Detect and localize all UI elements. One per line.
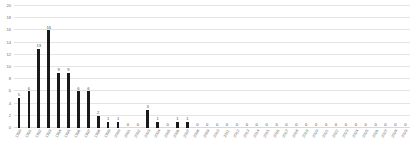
bar-slot[interactable]: 1 (153, 6, 163, 128)
x-axis-tick-label: 1996 (74, 129, 82, 138)
x-axis-tick-label: 2003 (143, 129, 151, 138)
y-axis-tick-label: 4 (9, 102, 11, 106)
bar-value-label: 0 (345, 123, 347, 127)
bar-value-label: 1 (107, 117, 109, 121)
bar-slot[interactable]: 1 (103, 6, 113, 128)
bar[interactable] (67, 73, 70, 128)
bar-slot[interactable]: 16 (44, 6, 54, 128)
x-axis-tick: 2014 (252, 128, 262, 159)
bar-value-label: 6 (87, 87, 89, 91)
bar-value-label: 16 (46, 26, 51, 30)
x-axis-tick-label: 2000 (114, 129, 122, 138)
bar-slot[interactable]: 1 (173, 6, 183, 128)
bar-value-label: 0 (226, 123, 228, 127)
bar-slot[interactable]: 0 (400, 6, 410, 128)
bar[interactable] (57, 73, 60, 128)
bar-slot[interactable]: 0 (252, 6, 262, 128)
bar-slot[interactable]: 0 (301, 6, 311, 128)
bar-slot[interactable]: 0 (281, 6, 291, 128)
bar-slot[interactable]: 0 (371, 6, 381, 128)
bar-value-label: 0 (384, 123, 386, 127)
x-axis-tick: 1992 (34, 128, 44, 159)
x-axis-tick-label: 2026 (371, 129, 379, 138)
bar[interactable] (18, 98, 21, 129)
x-axis-tick-label: 1990 (15, 129, 23, 138)
bar-value-label: 0 (265, 123, 267, 127)
x-axis-tick: 2011 (222, 128, 232, 159)
bar-slot[interactable]: 5 (14, 6, 24, 128)
bar-slot[interactable]: 0 (291, 6, 301, 128)
x-axis-tick-label: 1999 (104, 129, 112, 138)
x-axis-tick: 2012 (232, 128, 242, 159)
bar-slot[interactable]: 6 (83, 6, 93, 128)
x-axis-tick: 2027 (381, 128, 391, 159)
bar-slot[interactable]: 9 (64, 6, 74, 128)
bar-slot[interactable]: 0 (321, 6, 331, 128)
bar-value-label: 0 (335, 123, 337, 127)
bar-value-label: 0 (355, 123, 357, 127)
bar-slot[interactable]: 0 (202, 6, 212, 128)
bar[interactable] (146, 110, 149, 128)
x-axis-tick: 2006 (173, 128, 183, 159)
bar-value-label: 0 (285, 123, 287, 127)
bar-slot[interactable]: 0 (341, 6, 351, 128)
bar-slot[interactable]: 1 (113, 6, 123, 128)
x-axis-tick-label: 2006 (173, 129, 181, 138)
bar-slot[interactable]: 0 (192, 6, 202, 128)
x-axis-tick-label: 2007 (183, 129, 191, 138)
x-axis-tick-label: 2028 (391, 129, 399, 138)
x-axis-tick: 2000 (113, 128, 123, 159)
x-axis-tick: 1995 (64, 128, 74, 159)
bar-slot[interactable]: 2 (93, 6, 103, 128)
x-axis-tick-label: 1992 (34, 129, 42, 138)
x-axis-tick: 2028 (390, 128, 400, 159)
bar-slot[interactable]: 0 (390, 6, 400, 128)
x-axis-tick: 2016 (272, 128, 282, 159)
bar-slot[interactable]: 0 (123, 6, 133, 128)
y-axis-tick-label: 6 (9, 89, 11, 93)
bar-slot[interactable]: 0 (163, 6, 173, 128)
bar-slot[interactable]: 0 (331, 6, 341, 128)
bar-slot[interactable]: 0 (242, 6, 252, 128)
x-axis-tick-label: 2009 (203, 129, 211, 138)
bar-value-label: 0 (127, 123, 129, 127)
bar[interactable] (87, 91, 90, 128)
bar-value-label: 1 (176, 117, 178, 121)
bar[interactable] (77, 91, 80, 128)
bar-slot[interactable]: 13 (34, 6, 44, 128)
bar-slot[interactable]: 0 (351, 6, 361, 128)
x-axis-tick-label: 2005 (163, 129, 171, 138)
bar-slot[interactable]: 0 (133, 6, 143, 128)
bar-slot[interactable]: 3 (143, 6, 153, 128)
x-axis-tick: 2004 (153, 128, 163, 159)
bar-value-label: 0 (196, 123, 198, 127)
bar-value-label: 0 (404, 123, 406, 127)
bar-slot[interactable]: 0 (212, 6, 222, 128)
bar-slot[interactable]: 0 (232, 6, 242, 128)
x-axis-tick-label: 1991 (25, 129, 33, 138)
y-axis-tick-label: 18 (6, 16, 11, 20)
bar[interactable] (28, 91, 31, 128)
bar-value-label: 1 (186, 117, 188, 121)
bar-value-label: 0 (256, 123, 258, 127)
bar-slot[interactable]: 6 (73, 6, 83, 128)
x-axis-tick: 2001 (123, 128, 133, 159)
bar-slot[interactable]: 0 (311, 6, 321, 128)
bar[interactable] (47, 30, 50, 128)
x-axis-tick-label: 1995 (64, 129, 72, 138)
bar-slot[interactable]: 0 (361, 6, 371, 128)
bar[interactable] (37, 49, 40, 128)
y-axis-tick-label: 14 (6, 41, 11, 45)
bar-slot[interactable]: 9 (54, 6, 64, 128)
bar-value-label: 1 (117, 117, 119, 121)
x-axis-tick: 2021 (321, 128, 331, 159)
bar-slot[interactable]: 0 (262, 6, 272, 128)
bar-slot[interactable]: 1 (182, 6, 192, 128)
bar-slot[interactable]: 6 (24, 6, 34, 128)
bar-value-label: 3 (147, 105, 149, 109)
bar-slot[interactable]: 0 (272, 6, 282, 128)
bar-slot[interactable]: 0 (381, 6, 391, 128)
bar[interactable] (97, 116, 100, 128)
x-axis-tick-label: 2011 (223, 129, 231, 138)
bar-slot[interactable]: 0 (222, 6, 232, 128)
